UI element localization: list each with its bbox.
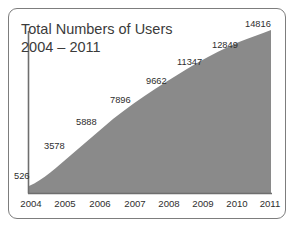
value-label-2005: 3578	[44, 141, 65, 151]
value-label-2009: 11347	[177, 57, 202, 67]
value-label-2010: 12849	[212, 40, 238, 50]
x-tick-2007: 2007	[124, 198, 145, 209]
chart-title: Total Numbers of Users	[21, 21, 173, 37]
x-tick-2004: 2004	[20, 198, 42, 209]
value-label-2008: 9662	[146, 76, 167, 86]
x-tick-2006: 2006	[89, 198, 110, 209]
x-tick-2005: 2005	[54, 198, 75, 209]
chart-subtitle: 2004 – 2011	[21, 39, 101, 55]
value-label-2006: 5888	[76, 117, 97, 127]
chart-card: Total Numbers of Users 2004 – 2011 526 3…	[8, 8, 286, 219]
value-label-2011: 14816	[245, 19, 271, 29]
value-label-2007: 7896	[110, 95, 131, 105]
area-chart: Total Numbers of Users 2004 – 2011 526 3…	[9, 9, 287, 220]
x-tick-2008: 2008	[158, 198, 179, 209]
x-tick-2011: 2011	[260, 198, 281, 209]
value-label-2004: 526	[14, 171, 30, 181]
x-tick-2010: 2010	[226, 198, 247, 209]
x-tick-2009: 2009	[192, 198, 213, 209]
